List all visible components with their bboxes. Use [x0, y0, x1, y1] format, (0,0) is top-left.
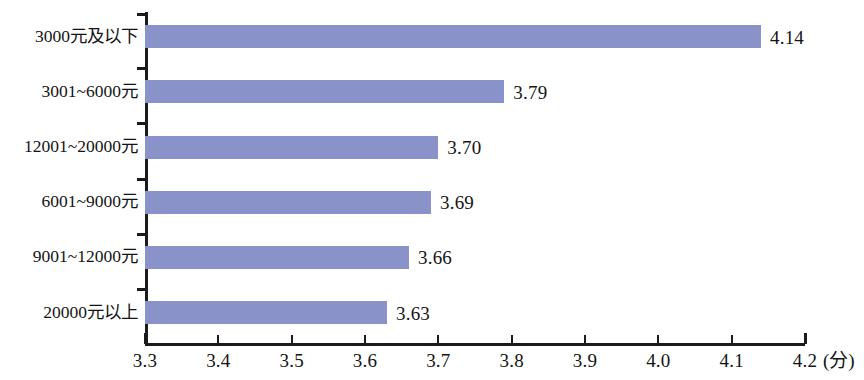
x-axis-tick [291, 335, 293, 344]
category-label: 12001~20000元 [0, 138, 138, 156]
y-axis-tick [137, 178, 148, 181]
x-axis-line [145, 343, 805, 346]
bar[interactable] [145, 80, 504, 103]
bar-value-label: 3.66 [418, 248, 452, 267]
x-axis-unit-label: (分) [823, 351, 855, 370]
y-axis-tick [137, 233, 148, 236]
y-axis-tick [137, 13, 148, 16]
bar-value-label: 4.14 [770, 27, 804, 46]
y-axis-tick [137, 288, 148, 291]
bar[interactable] [145, 301, 387, 324]
bar[interactable] [145, 25, 761, 48]
x-axis-tick-label: 3.5 [279, 351, 303, 370]
bar-value-label: 3.70 [447, 138, 481, 157]
bar[interactable] [145, 246, 409, 269]
x-axis-tick [731, 335, 733, 344]
x-axis-tick-label: 4.0 [646, 351, 670, 370]
x-axis-tick-label: 3.8 [499, 351, 523, 370]
category-label: 3001~6000元 [0, 83, 138, 101]
y-axis-tick [137, 122, 148, 125]
category-label: 9001~12000元 [0, 249, 138, 267]
x-axis-tick [804, 333, 807, 344]
y-axis-tick [137, 67, 148, 70]
category-label: 20000元以上 [0, 304, 138, 322]
x-axis-tick [217, 335, 219, 344]
x-axis-tick [657, 335, 659, 344]
x-axis-tick-label: 3.7 [426, 351, 450, 370]
x-axis-tick [144, 333, 147, 344]
x-axis-tick-label: 3.4 [206, 351, 230, 370]
bar[interactable] [145, 191, 431, 214]
x-axis-tick-label: 4.1 [719, 351, 743, 370]
x-axis-tick-label: 3.6 [353, 351, 377, 370]
x-axis-tick [584, 335, 586, 344]
x-axis-tick [511, 335, 513, 344]
bar[interactable] [145, 136, 438, 159]
x-axis-tick-label: 3.3 [133, 351, 157, 370]
bar-chart: 3000元及以下3001~6000元12001~20000元6001~9000元… [0, 0, 864, 380]
x-axis-tick-label: 4.2 [793, 351, 817, 370]
x-axis-tick [364, 335, 366, 344]
category-label: 3000元及以下 [0, 28, 138, 46]
bar-value-label: 3.63 [396, 303, 430, 322]
x-axis-tick [437, 335, 439, 344]
category-label: 6001~9000元 [0, 194, 138, 212]
x-axis-tick-label: 3.9 [573, 351, 597, 370]
bar-value-label: 3.79 [513, 82, 547, 101]
bar-value-label: 3.69 [440, 193, 474, 212]
